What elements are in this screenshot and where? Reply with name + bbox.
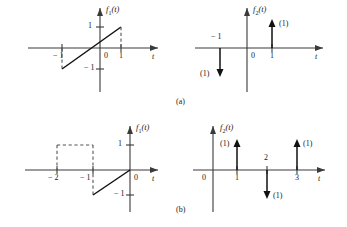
x-tick-label-neg1: − 1 bbox=[53, 52, 64, 60]
caption-a: (a) bbox=[176, 97, 185, 106]
function-label-top-left: f1(t) bbox=[106, 4, 119, 16]
panel-top-right: f2(t) (1) (1) − 1 1 0 t bbox=[175, 0, 347, 100]
impulse-down-arrowhead bbox=[217, 69, 224, 77]
impulse-up-arrowhead bbox=[269, 19, 276, 27]
x-axis-arrowhead bbox=[150, 45, 158, 51]
y-tick-label-pos1: 1 bbox=[88, 22, 92, 30]
impulse-up-label: (1) bbox=[279, 20, 288, 28]
panel-top-left: f1(t) 1 − 1 − 1 1 0 t bbox=[0, 0, 175, 100]
impulse-label-1: (1) bbox=[220, 140, 229, 148]
x-tick-label-neg1: − 1 bbox=[211, 33, 222, 41]
y-tick-label-neg1: − 1 bbox=[114, 190, 125, 198]
impulse-down-label: (1) bbox=[200, 70, 209, 78]
x-tick-label-2: 2 bbox=[264, 154, 268, 162]
y-axis-arrowhead bbox=[97, 8, 103, 16]
y-tick-label-neg1: − 1 bbox=[84, 64, 95, 72]
panel-bottom-left: f1(t) 1 − 1 − 2 − 1 0 t bbox=[0, 110, 175, 220]
top-left-plot bbox=[0, 0, 175, 100]
origin-label: 0 bbox=[104, 52, 108, 60]
origin-label: 0 bbox=[251, 52, 255, 60]
impulse-up-3-arrowhead bbox=[294, 139, 301, 147]
x-axis-label: t bbox=[152, 53, 154, 61]
y-axis-arrowhead bbox=[127, 126, 133, 134]
x-axis-arrowhead bbox=[315, 45, 323, 51]
x-axis-arrowhead bbox=[317, 167, 325, 173]
caption-b: (b) bbox=[176, 205, 185, 214]
x-axis-label: t bbox=[318, 175, 320, 183]
function-label-bottom-left: f1(t) bbox=[136, 122, 149, 134]
y-axis-arrowhead bbox=[244, 8, 250, 16]
figure-container: f1(t) 1 − 1 − 1 1 0 t f2(t) (1) (1) − 1 … bbox=[0, 0, 347, 227]
function-label-top-right: f2(t) bbox=[253, 4, 266, 16]
x-tick-label-neg2: − 2 bbox=[48, 174, 59, 182]
x-tick-label-neg1: − 1 bbox=[80, 174, 91, 182]
panel-bottom-right: f2(t) (1) (1) (1) 0 1 2 3 t bbox=[175, 110, 347, 220]
origin-label: 0 bbox=[134, 174, 138, 182]
function-label-bottom-right: f2(t) bbox=[220, 122, 233, 134]
origin-label: 0 bbox=[202, 174, 206, 182]
x-tick-label-3: 3 bbox=[295, 174, 299, 182]
y-axis-arrowhead bbox=[210, 126, 216, 134]
bottom-right-plot bbox=[175, 110, 347, 220]
x-tick-label-pos1: 1 bbox=[270, 52, 274, 60]
x-axis-label: t bbox=[152, 175, 154, 183]
impulse-label-3: (1) bbox=[303, 140, 312, 148]
impulse-label-2: (1) bbox=[273, 192, 282, 200]
impulse-up-1-arrowhead bbox=[234, 139, 241, 147]
x-tick-label-1: 1 bbox=[235, 174, 239, 182]
x-axis-arrowhead bbox=[150, 167, 158, 173]
impulse-down-2-arrowhead bbox=[264, 191, 271, 199]
y-tick-label-pos1: 1 bbox=[118, 140, 122, 148]
x-axis-label: t bbox=[315, 53, 317, 61]
x-tick-label-pos1: 1 bbox=[119, 52, 123, 60]
